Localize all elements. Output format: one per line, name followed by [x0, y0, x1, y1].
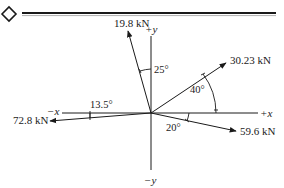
force-19-8-kN: [128, 31, 151, 113]
neg-x-label: −x: [47, 105, 59, 117]
figure: +y −y +x −x 19.8 kN 30.23 kN 72.8 kN 59.…: [0, 0, 284, 188]
angle-label-20: 20°: [166, 122, 181, 133]
diamond-icon: [2, 7, 16, 21]
angle-label-13-5: 13.5°: [90, 99, 113, 110]
angle-label-40: 40°: [190, 84, 205, 95]
pos-x-label: +x: [260, 107, 272, 119]
angle-arc-25: [139, 69, 151, 73]
force-59-6-kN: [151, 113, 236, 131]
force-label-19-8: 19.8 kN: [114, 17, 150, 29]
header-rule: [22, 13, 276, 16]
force-label-59-6: 59.6 kN: [240, 125, 276, 137]
force-72-8-kN: [50, 113, 151, 121]
force-label-30-23: 30.23 kN: [230, 54, 271, 66]
angle-label-25: 25°: [154, 64, 169, 75]
force-label-72-8: 72.8 kN: [13, 114, 49, 126]
neg-y-label: −y: [144, 174, 156, 186]
